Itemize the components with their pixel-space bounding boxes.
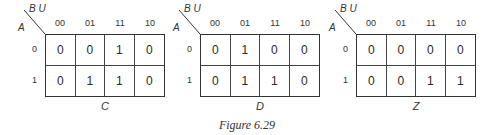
column-header: 01 xyxy=(75,18,105,28)
column-header: 11 xyxy=(105,18,135,28)
kmap-cell: 1 xyxy=(76,66,106,97)
kmap-cell: 0 xyxy=(357,66,387,97)
kmap-cell: 0 xyxy=(46,66,76,97)
kmap-cell: 0 xyxy=(446,35,476,66)
kmap-output-label: D xyxy=(200,100,320,112)
row-header: 0 xyxy=(32,44,37,54)
kmap-grid: 00000011 xyxy=(356,34,476,97)
kmap-cell: 0 xyxy=(416,35,446,66)
column-header: 01 xyxy=(386,18,416,28)
kmap-cell: 1 xyxy=(105,66,135,97)
kmap-grid: 01000110 xyxy=(200,34,320,97)
kmap-cell: 1 xyxy=(260,66,290,97)
kmap-cell: 0 xyxy=(201,35,231,66)
row-header: 1 xyxy=(32,75,37,85)
column-variables-label: B U xyxy=(184,3,201,14)
column-header: 01 xyxy=(230,18,260,28)
kmap-cell: 0 xyxy=(201,66,231,97)
row-header: 0 xyxy=(187,44,192,54)
kmap-cell: 1 xyxy=(446,66,476,97)
kmap-cell: 0 xyxy=(260,35,290,66)
column-variables-label: B U xyxy=(340,3,357,14)
kmap-cell: 0 xyxy=(387,66,417,97)
row-variable-label: A xyxy=(329,22,336,33)
column-header: 11 xyxy=(260,18,290,28)
row-variable-label: A xyxy=(173,22,180,33)
column-header: 00 xyxy=(200,18,230,28)
kmap-cell: 1 xyxy=(416,66,446,97)
kmap-cell: 1 xyxy=(231,35,261,66)
kmap-cell: 0 xyxy=(46,35,76,66)
row-header: 1 xyxy=(187,75,192,85)
kmap-cell: 0 xyxy=(387,35,417,66)
column-header: 10 xyxy=(446,18,476,28)
kmap-cell: 0 xyxy=(357,35,387,66)
karnaugh-map-c: B UA000111100100100110C xyxy=(0,0,165,115)
karnaugh-map-d: B UA000111100101000110D xyxy=(155,0,320,115)
column-header: 00 xyxy=(356,18,386,28)
kmap-grid: 00100110 xyxy=(45,34,165,97)
kmap-cell: 0 xyxy=(76,35,106,66)
figure-caption: Figure 6.29 xyxy=(0,118,494,133)
column-header: 00 xyxy=(45,18,75,28)
row-variable-label: A xyxy=(18,22,25,33)
column-header: 11 xyxy=(416,18,446,28)
row-header: 0 xyxy=(343,44,348,54)
kmap-cell: 1 xyxy=(105,35,135,66)
karnaugh-map-z: B UA000111100100000011Z xyxy=(311,0,476,115)
row-header: 1 xyxy=(343,75,348,85)
kmap-cell: 1 xyxy=(231,66,261,97)
column-variables-label: B U xyxy=(29,3,46,14)
kmap-output-label: Z xyxy=(356,100,476,112)
kmap-output-label: C xyxy=(45,100,165,112)
